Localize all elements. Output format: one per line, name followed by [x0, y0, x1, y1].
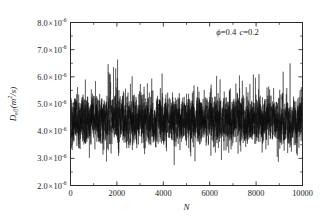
y-ticklabel-mantissa-2: 4.0 [37, 127, 47, 136]
y-ticklabel-exponent-6: -6 [62, 17, 67, 23]
x-axis-title: N [182, 202, 190, 212]
y-ticklabel-times-5: × [48, 46, 53, 55]
y-ticklabel-times-1: × [48, 154, 53, 163]
y-ticklabel-times-0: × [48, 182, 53, 191]
y-ticklabel-mantissa-4: 6.0 [37, 73, 47, 82]
y-axis-title-unit-open: (m [8, 98, 18, 108]
diffusivity-noise-chart: 02000400060008000100002.0×10-63.0×10-64.… [0, 0, 331, 221]
y-ticklabel-2: 4.0×10-6 [37, 126, 66, 136]
x-ticklabel-5: 10000 [292, 189, 313, 198]
y-ticklabel-exponent-1: -6 [62, 153, 67, 159]
y-ticklabel-6: 8.0×10-6 [37, 17, 66, 27]
y-ticklabel-mantissa-3: 5.0 [37, 100, 47, 109]
y-ticklabel-base-6: 10 [54, 19, 62, 28]
y-ticklabel-exponent-3: -6 [62, 99, 67, 105]
y-ticklabel-base-5: 10 [54, 46, 62, 55]
annotation-value-phi: =0.4 [221, 27, 237, 37]
annotation-value-c: =0.2 [243, 27, 259, 37]
y-ticklabel-mantissa-5: 7.0 [37, 46, 47, 55]
chart-annotation-0: ϕ=0.4c=0.2 [216, 27, 259, 37]
y-axis-title-unit-close: /s) [8, 87, 18, 97]
x-ticklabel-0: 0 [68, 189, 72, 198]
y-ticklabel-mantissa-1: 3.0 [37, 154, 47, 163]
x-ticklabel-2: 4000 [155, 189, 172, 198]
y-ticklabel-3: 5.0×10-6 [37, 99, 66, 109]
y-ticklabel-times-3: × [48, 100, 53, 109]
y-ticklabel-4: 6.0×10-6 [37, 72, 66, 82]
y-ticklabel-exponent-5: -6 [62, 44, 67, 50]
y-ticklabel-base-0: 10 [54, 182, 62, 191]
x-ticklabel-1: 2000 [109, 189, 126, 198]
x-ticklabel-4: 8000 [248, 189, 265, 198]
y-ticklabel-exponent-4: -6 [62, 72, 67, 78]
y-ticklabel-5: 7.0×10-6 [37, 44, 66, 54]
y-ticklabel-base-3: 10 [54, 100, 62, 109]
data-trace-D_eff [71, 60, 303, 165]
chart-canvas: 02000400060008000100002.0×10-63.0×10-64.… [0, 0, 331, 221]
y-ticklabel-mantissa-6: 8.0 [37, 19, 47, 28]
y-ticklabel-exponent-2: -6 [62, 126, 67, 132]
y-ticklabel-1: 3.0×10-6 [37, 153, 66, 163]
y-ticklabel-mantissa-0: 2.0 [37, 182, 47, 191]
y-ticklabel-times-2: × [48, 127, 53, 136]
x-ticklabel-3: 6000 [201, 189, 218, 198]
y-ticklabel-base-2: 10 [54, 127, 62, 136]
y-ticklabel-base-1: 10 [54, 154, 62, 163]
y-ticklabel-times-4: × [48, 73, 53, 82]
y-ticklabel-exponent-0: -6 [62, 180, 67, 186]
y-ticklabel-base-4: 10 [54, 73, 62, 82]
y-axis-title: Deff(m2/s) [7, 87, 18, 122]
y-ticklabel-times-6: × [48, 19, 53, 28]
y-ticklabel-0: 2.0×10-6 [37, 180, 66, 190]
